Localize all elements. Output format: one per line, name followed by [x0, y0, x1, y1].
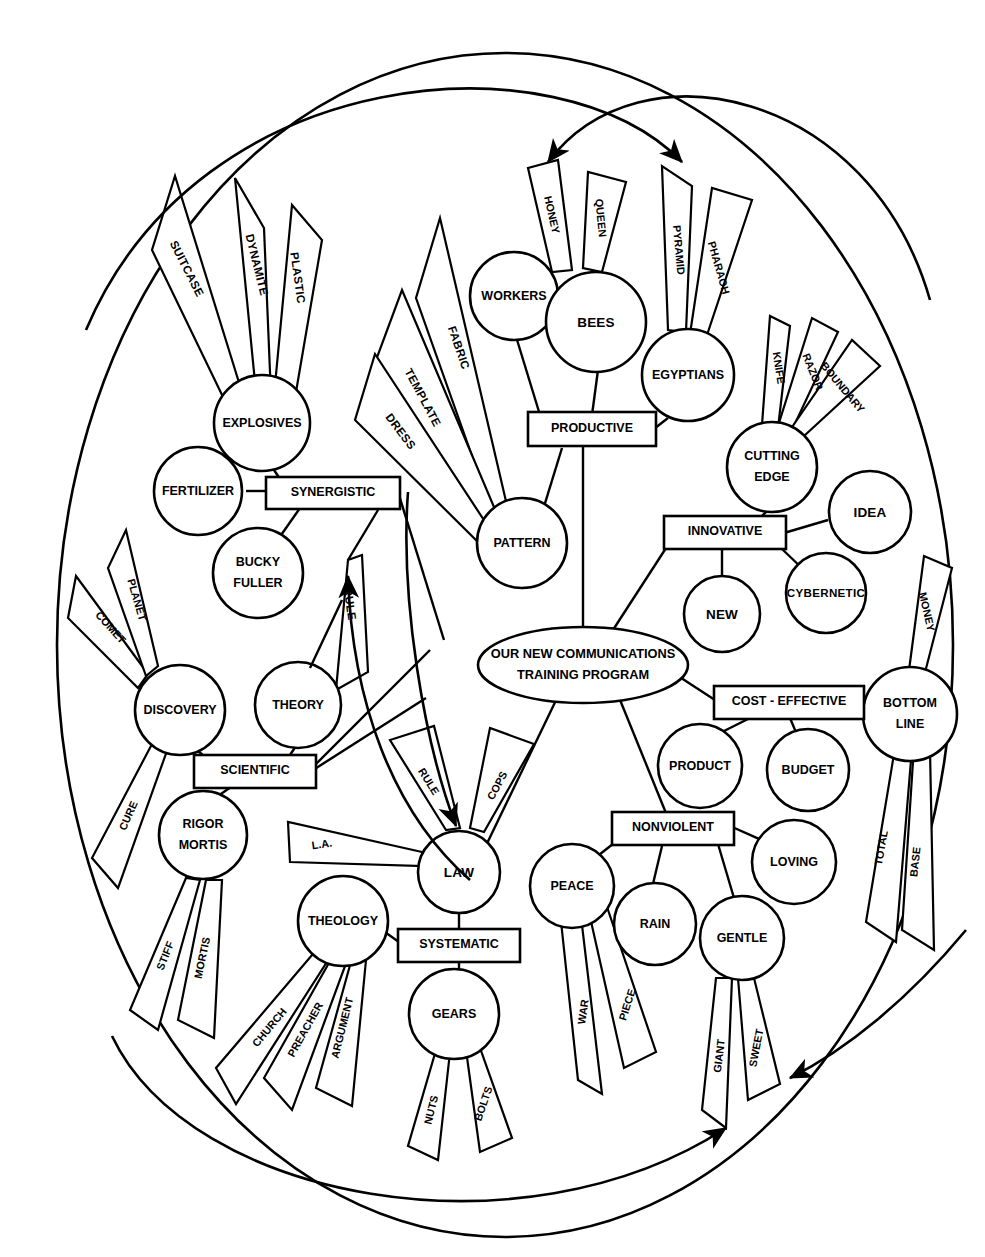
arrow-to-sweet-wedge [790, 930, 966, 1078]
node-label-egyptians: EGYPTIANS [652, 368, 724, 382]
node-label-rigor-mortis-1: RIGOR [183, 817, 224, 831]
branch-label-cost-effective: COST - EFFECTIVE [732, 694, 847, 708]
center-label-line2: TRAINING PROGRAM [517, 667, 649, 682]
center-node[interactable] [478, 627, 688, 703]
node-label-law: LAW [444, 865, 475, 880]
branch-label-synergistic: SYNERGISTIC [291, 485, 376, 499]
node-label-product: PRODUCT [669, 759, 731, 773]
node-label-pattern: PATTERN [493, 536, 550, 550]
branch-label-systematic: SYSTEMATIC [419, 937, 499, 951]
node-label-bucky-fuller-1: BUCKY [236, 555, 281, 569]
node-label-rigor-mortis-2: MORTIS [179, 838, 228, 852]
node-bottom-line[interactable] [863, 667, 957, 761]
wedge-group-gears [408, 1048, 512, 1160]
node-label-bottom-line-1: BOTTOM [883, 696, 937, 710]
branch-synergistic: SUITCASE DYNAMITE PLASTIC EXPLOSIVES FER… [152, 176, 400, 690]
wedge-group-bees [528, 160, 626, 272]
branch-label-innovative: INNOVATIVE [688, 524, 763, 538]
node-label-discovery: DISCOVERY [143, 703, 217, 717]
node-rigor-mortis[interactable] [159, 791, 247, 879]
node-label-budget: BUDGET [782, 763, 835, 777]
node-label-bees: BEES [577, 315, 615, 330]
branch-label-scientific: SCIENTIFIC [220, 763, 289, 777]
node-label-loving: LOVING [770, 855, 818, 869]
node-label-bucky-fuller-2: FULLER [233, 576, 282, 590]
node-label-fertilizer: FERTILIZER [162, 484, 234, 498]
node-label-cybernetic: CYBERNETIC [787, 586, 866, 599]
node-label-peace: PEACE [550, 879, 593, 893]
node-label-bottom-line-2: LINE [896, 717, 924, 731]
wedge-group-rigor-mortis [130, 878, 222, 1038]
center-label-line1: OUR NEW COMMUNICATIONS [491, 646, 676, 661]
branch-nonviolent: WAR PIECE GIANT SWEET PEACE RAIN GENTLE … [530, 812, 836, 1128]
node-cutting-edge[interactable] [727, 422, 817, 512]
branch-systematic: RULE COPS L.A. CHURCH PREACHER ARGUMENT … [216, 726, 534, 1160]
node-label-gears: GEARS [432, 1007, 476, 1021]
node-label-theory: THEORY [272, 698, 324, 712]
node-label-explosives: EXPLOSIVES [222, 416, 301, 430]
node-label-rain: RAIN [640, 917, 671, 931]
node-bucky-fuller[interactable] [213, 528, 303, 618]
wedge-la [288, 822, 424, 866]
node-label-cutting-edge-2: EDGE [754, 470, 789, 484]
branch-label-nonviolent: NONVIOLENT [632, 820, 714, 834]
node-label-new: NEW [706, 607, 738, 622]
node-label-gentle: GENTLE [717, 931, 768, 945]
branch-label-productive: PRODUCTIVE [551, 421, 633, 435]
node-label-workers: WORKERS [481, 289, 546, 303]
node-label-theology: THEOLOGY [308, 914, 379, 928]
node-label-idea: IDEA [853, 505, 886, 520]
mindmap-canvas: SUITCASE DYNAMITE PLASTIC EXPLOSIVES FER… [0, 0, 985, 1257]
node-label-cutting-edge-1: CUTTING [744, 449, 800, 463]
